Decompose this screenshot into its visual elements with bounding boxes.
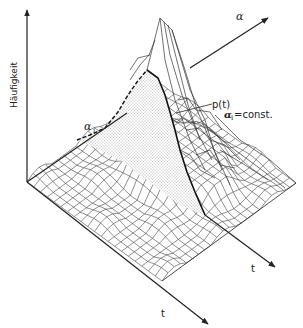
alpha-axis [190,18,268,68]
svg-text:=const.: =const. [234,109,273,120]
alpha-i-label: α i [84,120,96,135]
svg-text:α: α [84,120,92,133]
surface-diagram: Häufigkeit α α i p(t) α i =const. t t [0,0,303,328]
p-t-label: p(t) α i =const. [212,99,273,122]
cross-section-t-axis [205,215,275,267]
t-axis-label-front: t [161,308,165,319]
vertical-axis-label: Häufigkeit [9,62,19,108]
t-axis-label-back: t [251,263,255,274]
cross-section-p-t [77,70,205,215]
alpha-axis-label: α [236,10,244,23]
